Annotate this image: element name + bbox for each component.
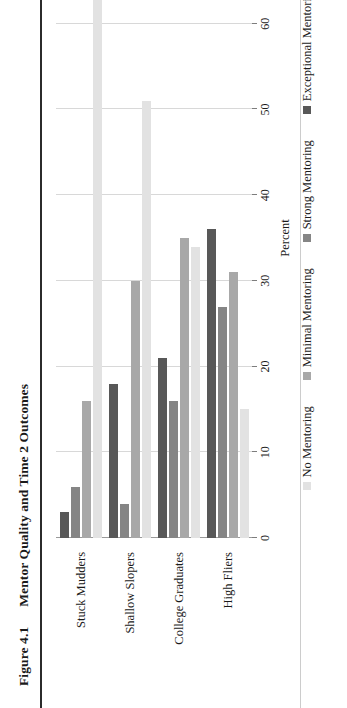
category-label: Stuck Mudders <box>73 552 88 628</box>
legend-label: Minimal Mentoring <box>300 268 315 367</box>
category-label: Shallow Slopers <box>122 552 137 634</box>
tick-label: 50 <box>258 103 273 115</box>
tick-mark <box>252 280 257 281</box>
tick-mark <box>252 537 257 538</box>
y-axis-ticks: 010203040506070 <box>56 0 252 538</box>
tick-label: 40 <box>258 189 273 201</box>
chart-legend: No MentoringMinimal MentoringStrong Ment… <box>298 0 316 538</box>
figure-number: Figure 4.1 <box>16 627 31 686</box>
legend-item[interactable]: Exceptional Mentoring <box>300 0 315 114</box>
legend-swatch-icon <box>303 483 311 491</box>
category-label: College Graduates <box>171 552 186 645</box>
legend-label: Strong Mentoring <box>300 140 315 229</box>
legend-label: No Mentoring <box>300 406 315 477</box>
tick-mark <box>252 108 257 109</box>
tick-mark <box>252 366 257 367</box>
legend-item[interactable]: Strong Mentoring <box>300 140 315 242</box>
figure-caption: Figure 4.1Mentor Quality and Time 2 Outc… <box>16 384 32 686</box>
tick-label: 30 <box>258 275 273 287</box>
legend-swatch-icon <box>303 106 311 114</box>
legend-label: Exceptional Mentoring <box>300 0 315 101</box>
caption-rule <box>40 0 42 708</box>
tick-mark <box>252 451 257 452</box>
tick-mark <box>252 23 257 24</box>
tick-mark <box>252 194 257 195</box>
tick-label: 0 <box>258 535 273 541</box>
legend-swatch-icon <box>303 234 311 242</box>
rotated-page-wrapper: Figure 4.1Mentor Quality and Time 2 Outc… <box>0 0 347 708</box>
figure-title: Mentor Quality and Time 2 Outcomes <box>16 384 31 607</box>
y-axis-title: Percent <box>278 0 294 538</box>
category-label: High Fliers <box>220 552 235 609</box>
tick-label: 60 <box>258 18 273 30</box>
tick-label: 20 <box>258 361 273 373</box>
tick-label: 10 <box>258 446 273 458</box>
figure-page: Figure 4.1Mentor Quality and Time 2 Outc… <box>0 0 347 708</box>
legend-item[interactable]: No Mentoring <box>300 406 315 490</box>
legend-swatch-icon <box>303 372 311 380</box>
legend-item[interactable]: Minimal Mentoring <box>300 268 315 380</box>
